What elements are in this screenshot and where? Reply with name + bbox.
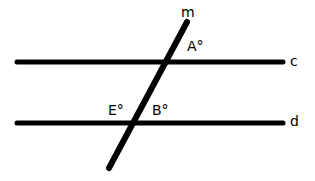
label-m: m	[181, 5, 195, 19]
label-angle-e: E°	[108, 103, 124, 117]
transversal-m	[109, 22, 187, 168]
label-angle-b: B°	[152, 103, 169, 117]
diagram-canvas	[0, 0, 315, 181]
label-angle-a: A°	[187, 39, 204, 53]
label-c: c	[290, 54, 298, 68]
label-d: d	[290, 114, 299, 128]
